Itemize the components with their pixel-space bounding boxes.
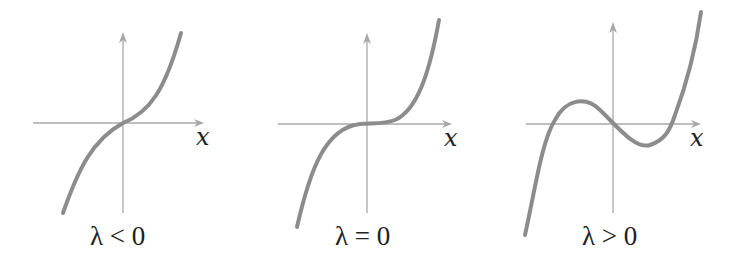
x-axis-label: x [196,123,210,151]
panel-caption: λ > 0 [582,221,637,251]
panel-lambda-zero: x λ = 0 [278,20,458,251]
panel-caption: λ = 0 [335,221,390,251]
x-axis-label: x [444,124,458,152]
panel-lambda-positive: x λ > 0 [525,12,704,251]
cubic-graphs-figure: x λ < 0 x λ = 0 x λ > 0 [0,0,739,260]
panel-lambda-negative: x λ < 0 [33,32,210,251]
panel-caption: λ < 0 [90,221,145,251]
x-axis-label: x [690,124,704,152]
